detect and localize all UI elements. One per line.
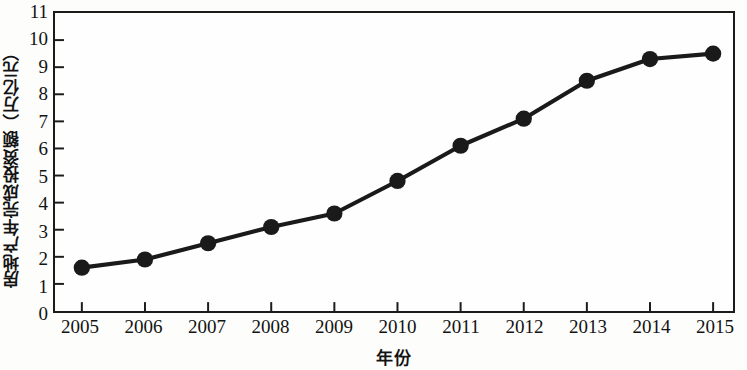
data-point-marker	[326, 205, 342, 221]
y-tick-label: 1	[24, 276, 48, 295]
y-tick-marks	[55, 40, 64, 284]
line-chart-figure: 房地产年完成投资额（万亿元） 01234567891011 2005200620…	[0, 0, 747, 370]
plot-area	[53, 11, 735, 313]
y-tick-label: 5	[24, 166, 48, 185]
x-axis-title: 年份	[53, 344, 735, 369]
x-tick-label: 2007	[188, 317, 226, 337]
y-tick-label: 3	[24, 221, 48, 240]
data-point-marker	[642, 51, 658, 67]
x-tick-label: 2015	[696, 317, 734, 337]
data-point-marker	[389, 173, 405, 189]
x-tick-label: 2005	[61, 317, 99, 337]
data-point-marker	[263, 219, 279, 235]
data-point-marker	[452, 138, 468, 154]
data-point-marker	[705, 46, 721, 62]
data-point-marker	[579, 73, 595, 89]
data-point-marker	[137, 251, 153, 267]
x-tick-marks	[82, 302, 713, 311]
data-point-marker	[74, 260, 90, 276]
y-tick-label: 4	[24, 194, 48, 213]
y-tick-label: 6	[24, 139, 48, 158]
x-tick-label: 2012	[506, 317, 544, 337]
plot-svg	[55, 13, 733, 311]
y-tick-label: 9	[24, 56, 48, 75]
y-tick-label: 11	[24, 2, 48, 21]
y-tick-label: 2	[24, 249, 48, 268]
x-tick-label: 2011	[442, 317, 479, 337]
x-tick-label: 2013	[569, 317, 607, 337]
x-tick-label: 2008	[252, 317, 290, 337]
y-axis-tick-labels: 01234567891011	[22, 0, 48, 370]
x-tick-label: 2009	[315, 317, 353, 337]
y-axis-title-text: 房地产年完成投资额（万亿元）	[5, 43, 22, 288]
y-tick-label: 0	[24, 304, 48, 323]
y-tick-label: 10	[24, 29, 48, 48]
data-point-marker	[200, 235, 216, 251]
y-tick-label: 7	[24, 111, 48, 130]
data-point-marker	[516, 111, 532, 127]
x-tick-label: 2010	[379, 317, 417, 337]
data-series-line	[82, 54, 713, 268]
x-tick-label: 2006	[125, 317, 163, 337]
x-axis-tick-labels: 2005200620072008200920102011201220132014…	[53, 317, 735, 343]
y-tick-label: 8	[24, 84, 48, 103]
x-tick-label: 2014	[633, 317, 671, 337]
x-axis-title-text: 年份	[376, 348, 412, 368]
data-point-markers	[74, 46, 722, 276]
